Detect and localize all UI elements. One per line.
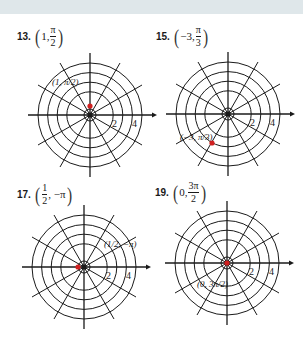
plotted-point	[87, 103, 92, 108]
point-label: (−3, π/3)	[180, 132, 213, 142]
radial-line	[54, 267, 84, 319]
tick-label-4: 4	[126, 270, 131, 281]
tick-label-4: 4	[269, 266, 274, 277]
radial-line	[228, 84, 280, 114]
radial-line	[227, 211, 257, 263]
radial-line	[197, 263, 227, 315]
radial-line	[198, 62, 228, 114]
tick-label-4: 4	[132, 118, 137, 129]
radial-line	[38, 85, 90, 115]
radial-line	[54, 215, 84, 267]
tick-label-2: 2	[112, 118, 117, 129]
axis-arrow-icon	[152, 113, 157, 118]
tick-label-2: 2	[250, 117, 255, 128]
polar-grid-19: 24(0, 3π/2)	[165, 201, 294, 325]
radial-line	[176, 84, 228, 114]
radial-line	[90, 63, 120, 115]
radial-line	[90, 85, 142, 115]
axis-arrow-icon	[290, 112, 295, 117]
polar-grid-15: 24(−3, π/3)	[166, 52, 295, 176]
radial-line	[60, 63, 90, 115]
polar-grid-17: 24(1/2, −π)	[22, 205, 151, 329]
axis-arrow-icon	[289, 261, 294, 266]
polar-grid-13: 24(1, π/2)24(−3, π/3)24(1/2, −π)24(0, 3π…	[0, 0, 303, 342]
pole-dot	[82, 265, 87, 270]
tick-label-4: 4	[270, 117, 275, 128]
point-label: (1/2, −π)	[104, 239, 137, 249]
radial-line	[32, 267, 84, 297]
pole-dot	[226, 112, 231, 117]
pole-dot	[88, 113, 93, 118]
radial-line	[227, 233, 279, 263]
tick-label-2: 2	[249, 266, 254, 277]
radial-line	[38, 115, 90, 145]
point-label: (0, 3π/2)	[197, 279, 228, 289]
plotted-point	[75, 264, 80, 269]
tick-label-2: 2	[106, 270, 111, 281]
plotted-point	[209, 140, 214, 145]
radial-line	[175, 233, 227, 263]
axis-arrow-icon	[146, 265, 151, 270]
point-label: (1, π/2)	[52, 77, 79, 87]
plotted-point	[224, 260, 229, 265]
polar-grid-13: 24(1, π/2)	[28, 53, 157, 177]
radial-line	[197, 211, 227, 263]
radial-line	[60, 115, 90, 167]
radial-line	[228, 62, 258, 114]
radial-line	[32, 237, 84, 267]
